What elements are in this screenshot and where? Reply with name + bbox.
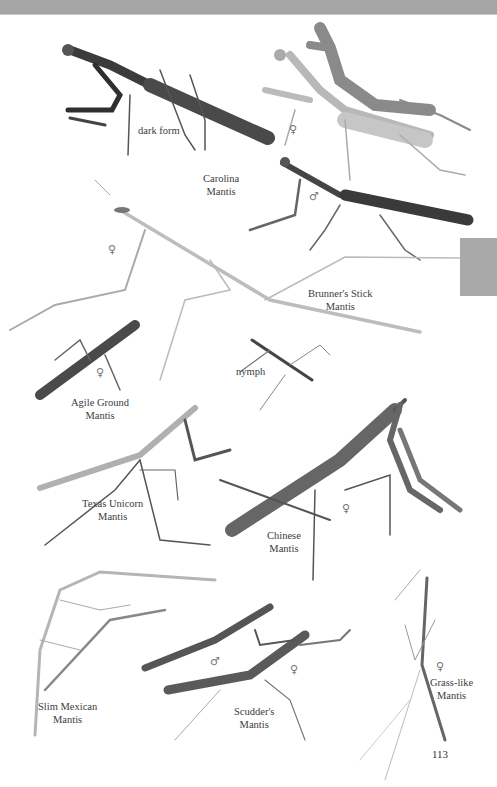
caption-line: Mantis	[71, 409, 129, 422]
caption-grass-like-mantis: Grass-like Mantis	[430, 676, 473, 702]
caption-agile-ground-mantis: Agile Ground Mantis	[71, 396, 129, 422]
female-symbol: ♀	[289, 123, 297, 136]
caption-line: Carolina	[203, 172, 239, 185]
carolina-mantis-female-image	[265, 28, 470, 180]
mantis-illustrations	[0, 0, 497, 787]
male-symbol: ♂	[309, 190, 319, 203]
female-symbol: ♀	[436, 660, 444, 673]
caption-slim-mexican-mantis: Slim Mexican Mantis	[38, 700, 97, 726]
caption-line: Scudder's	[234, 705, 274, 718]
caption-line: Mantis	[308, 300, 373, 313]
female-symbol: ♀	[342, 502, 350, 515]
caption-line: Mantis	[234, 718, 274, 731]
female-symbol: ♀	[108, 243, 116, 256]
agile-ground-mantis-image	[40, 325, 135, 395]
caption-line: Agile Ground	[71, 396, 129, 409]
caption-line: Mantis	[38, 713, 97, 726]
caption-brunners-stick-mantis: Brunner's Stick Mantis	[308, 287, 373, 313]
carolina-mantis-dark-form-image	[62, 44, 268, 155]
male-symbol: ♂	[210, 655, 220, 668]
caption-chinese-mantis: Chinese Mantis	[267, 529, 301, 555]
carolina-mantis-male-image	[250, 157, 468, 260]
page-number: 113	[432, 748, 448, 760]
caption-carolina-mantis: Carolina Mantis	[203, 172, 239, 198]
caption-line: Slim Mexican	[38, 700, 97, 713]
caption-line: Mantis	[82, 510, 143, 523]
caption-line: Chinese	[267, 529, 301, 542]
caption-line: Mantis	[430, 689, 473, 702]
female-symbol: ♀	[290, 663, 298, 676]
female-symbol: ♀	[96, 366, 104, 379]
caption-dark-form: dark form	[138, 124, 180, 137]
caption-line: Mantis	[203, 185, 239, 198]
caption-line: Texas Unicorn	[82, 497, 143, 510]
caption-line: Mantis	[267, 542, 301, 555]
caption-scudders-mantis: Scudder's Mantis	[234, 705, 274, 731]
caption-line: Grass-like	[430, 676, 473, 689]
texas-unicorn-mantis-image	[40, 408, 230, 545]
caption-texas-unicorn-mantis: Texas Unicorn Mantis	[82, 497, 143, 523]
chinese-mantis-image	[220, 400, 460, 580]
caption-line: Brunner's Stick	[308, 287, 373, 300]
caption-nymph: nymph	[236, 365, 265, 378]
